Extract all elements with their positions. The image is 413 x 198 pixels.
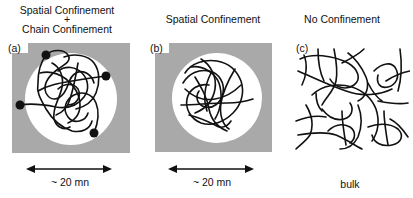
polymer-chains-bulk xyxy=(296,49,410,149)
panel-a-label: (a) xyxy=(8,43,21,54)
scale-arrow-a xyxy=(26,163,112,175)
bulk-caption: bulk xyxy=(330,178,370,190)
chain-anchor-dot xyxy=(42,51,51,60)
scale-arrow-b xyxy=(168,163,254,175)
scale-label-a: ~ 20 mn xyxy=(40,176,100,188)
scale-label-b: ~ 20 mn xyxy=(182,176,242,188)
panel-c-title: No Confinement xyxy=(292,13,392,25)
panel-b-label: (b) xyxy=(150,43,163,54)
panel-a-diagram xyxy=(12,43,130,153)
panel-b-title: Spatial Confinement xyxy=(152,13,274,25)
panel-a-title-plus: + xyxy=(4,16,130,23)
panel-b-diagram xyxy=(155,43,272,152)
panel-c-label: (c) xyxy=(296,43,308,54)
chain-anchor-dot xyxy=(16,101,25,110)
chain-anchor-dot xyxy=(90,129,99,138)
panel-c-diagram xyxy=(292,45,410,150)
chain-anchor-dot xyxy=(102,72,111,81)
panel-a-title-line2: Chain Confinement xyxy=(22,23,112,35)
panel-a-title: Spatial Confinement + Chain Confinement xyxy=(4,4,130,35)
